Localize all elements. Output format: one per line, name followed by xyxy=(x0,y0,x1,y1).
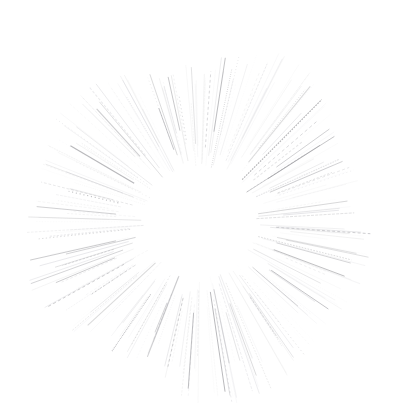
sunburst-radial-line-chart xyxy=(0,0,400,403)
chart-background xyxy=(0,0,400,403)
figure-canvas xyxy=(0,0,400,403)
